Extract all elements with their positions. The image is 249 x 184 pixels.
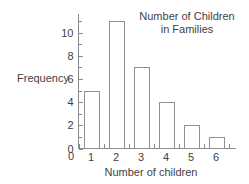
histogram-bar	[160, 103, 175, 149]
x-axis-tick-label: 4	[163, 151, 169, 163]
y-axis-tick-label: 8	[67, 50, 73, 62]
chart-canvas: 0246810 123456 0 Frequency Number of chi…	[0, 0, 249, 184]
x-axis-tick-label: 2	[113, 151, 119, 163]
histogram-bar	[135, 68, 150, 149]
chart-title-line-1: Number of Children	[139, 10, 234, 22]
histogram-bar	[210, 138, 225, 149]
y-axis-tick-label: 4	[67, 96, 73, 108]
y-axis-tick-label: 2	[67, 119, 73, 131]
x-axis-tick-label: 3	[138, 151, 144, 163]
chart-title-line-2: in Families	[161, 23, 214, 35]
histogram-bar	[85, 92, 100, 149]
histogram-chart: 0246810 123456 0 Frequency Number of chi…	[0, 0, 249, 184]
histogram-bar	[110, 22, 125, 149]
y-axis-tick-label: 10	[61, 27, 73, 39]
x-axis-tick-label: 5	[188, 151, 194, 163]
x-axis-tick-label: 6	[213, 151, 219, 163]
y-axis-title: Frequency	[17, 72, 69, 84]
histogram-bar	[185, 126, 200, 149]
x-axis-tick-label: 1	[88, 151, 94, 163]
x-axis-title: Number of children	[105, 166, 198, 178]
x-axis-origin-label: 0	[68, 150, 74, 162]
